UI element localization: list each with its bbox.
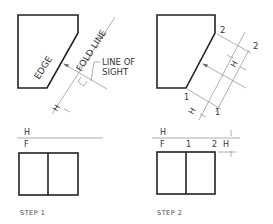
edge-label: EDGE xyxy=(32,54,54,81)
step2-panel: 2 2 1 1 H H H F 1 2 H STEP 2 xyxy=(152,15,258,217)
step1-h-label: H xyxy=(24,128,30,137)
point-1-aux-label: 1 xyxy=(215,108,220,117)
step1-h-marker: H xyxy=(51,103,62,113)
h-dim-front-label: H xyxy=(223,140,229,149)
point-2-aux-label: 2 xyxy=(253,41,258,51)
step1-f-label: F xyxy=(24,140,29,149)
step2-top-view-shape xyxy=(157,15,215,88)
step2-fold-line xyxy=(199,32,245,120)
step2-h-label: H xyxy=(160,128,166,137)
line-of-sight-leader xyxy=(91,62,100,81)
step2-caption: STEP 2 xyxy=(157,209,182,217)
step1-h-tick xyxy=(64,109,70,112)
h-dim-aux-label: H xyxy=(229,59,240,69)
point-1-top-label: 1 xyxy=(184,93,189,102)
step1-caption: STEP 1 xyxy=(20,209,45,217)
step2-aux-edge-line xyxy=(216,50,249,112)
projector-point-1 xyxy=(187,89,221,109)
h-dim-tick-bottom xyxy=(240,67,246,70)
step2-h-marker: H xyxy=(187,106,198,116)
step2-f-label: F xyxy=(160,140,165,149)
point-2-top-label: 2 xyxy=(220,25,225,35)
right-angle-marker xyxy=(78,77,87,86)
line-of-sight-label-line1: LINE OF xyxy=(102,57,135,67)
front-point-1-label: 1 xyxy=(186,140,191,149)
step1-top-view-shape xyxy=(18,15,78,88)
front-point-2-label: 2 xyxy=(212,140,217,149)
line-of-sight-label-line2: SIGHT xyxy=(102,67,129,77)
auxiliary-view-diagram: EDGE FOLD LINE LINE OF SIGHT H H F STEP … xyxy=(0,0,273,224)
projector-point-2 xyxy=(217,34,251,53)
step1-panel: EDGE FOLD LINE LINE OF SIGHT H H F STEP … xyxy=(17,15,135,217)
arrowhead-icon xyxy=(202,64,208,68)
arrowhead-icon xyxy=(63,64,69,68)
